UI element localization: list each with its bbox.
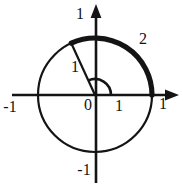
arc-length-label: 2 <box>139 30 147 47</box>
x-axis-unit-label: 1 <box>115 97 123 114</box>
y-axis-top-label: 1 <box>76 5 84 22</box>
y-axis-bottom-label: -1 <box>77 161 90 178</box>
x-axis-right-label: 1 <box>159 95 167 112</box>
unit-circle-diagram: 1 2 1 -1 0 1 1 -1 <box>0 0 183 186</box>
y-axis-arrowhead-icon <box>91 4 102 18</box>
radius-label: 1 <box>71 58 79 75</box>
unit-circle-figure: 1 2 1 -1 0 1 1 -1 <box>0 0 183 186</box>
origin-label: 0 <box>84 96 92 113</box>
x-axis-arrowhead-icon <box>165 90 179 101</box>
x-axis-left-label: -1 <box>3 98 16 115</box>
